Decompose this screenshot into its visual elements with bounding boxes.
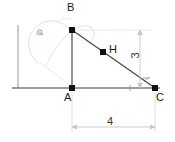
point-label-h: H bbox=[109, 44, 117, 55]
point-label-a: A bbox=[64, 92, 71, 103]
point-label-b: B bbox=[67, 2, 74, 13]
diagram-canvas bbox=[0, 0, 175, 142]
horizontal-dimension-label: 4 bbox=[107, 116, 113, 127]
point-marker-h bbox=[100, 49, 106, 55]
segment-bc bbox=[72, 30, 155, 88]
point-label-c: C bbox=[156, 92, 164, 103]
point-marker-b bbox=[69, 27, 75, 33]
geometry-figure: B A C H 3 4 φ bbox=[0, 0, 175, 142]
vertical-dimension-label: 3 bbox=[130, 52, 141, 58]
horizontal-dimension-line bbox=[71, 92, 156, 132]
